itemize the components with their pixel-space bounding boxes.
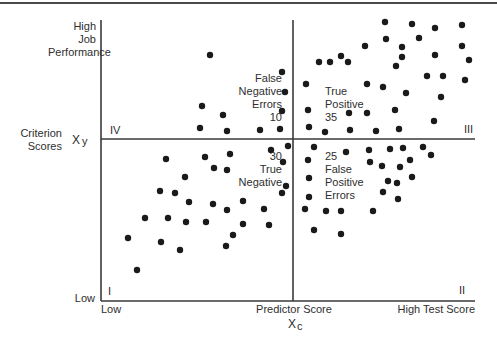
data-point (459, 43, 465, 49)
data-point (172, 190, 178, 196)
data-point (224, 207, 230, 213)
fn-count: 10 (222, 111, 282, 124)
y-axis-title: Criterion Scores (10, 127, 62, 153)
true-positive-annotation: True Positive 35 (325, 85, 364, 124)
tp-count: 35 (325, 111, 364, 124)
data-point (440, 73, 446, 79)
fn-line-3: Errors (222, 98, 282, 111)
quadrant-III-label: III (464, 123, 473, 136)
data-point (224, 128, 230, 134)
data-points (125, 19, 472, 273)
tp-line-1: True (325, 85, 364, 98)
data-point (432, 52, 438, 58)
data-point (211, 165, 217, 171)
data-point (399, 44, 405, 50)
data-point (387, 146, 393, 152)
data-point (223, 243, 229, 249)
data-point (177, 247, 183, 253)
data-point (282, 89, 288, 95)
data-point (347, 127, 353, 133)
data-point (207, 52, 213, 58)
y-symbol-main: X (72, 133, 80, 147)
data-point (142, 215, 148, 221)
data-point (266, 222, 272, 228)
data-point (283, 183, 289, 189)
data-point (380, 84, 386, 90)
data-point (403, 90, 409, 96)
data-point (182, 174, 188, 180)
y-title-line-2: Scores (10, 140, 62, 153)
data-point (163, 156, 169, 162)
data-point (370, 208, 376, 214)
y-high-line-1: High (48, 20, 96, 33)
data-point (306, 194, 312, 200)
x-axis-center-label: Predictor Score (252, 303, 336, 316)
data-point (285, 143, 291, 149)
false-negative-annotation: False Negative Errors 10 (222, 72, 282, 124)
data-point (134, 267, 140, 273)
data-point (302, 206, 308, 212)
data-point (210, 201, 216, 207)
data-point (323, 208, 329, 214)
x-axis-high-label: High Test Score (390, 303, 475, 316)
x-symbol-main: X (288, 317, 296, 331)
data-point (367, 159, 373, 165)
data-point (380, 189, 386, 195)
data-point (158, 239, 164, 245)
data-point (186, 199, 192, 205)
data-point (383, 36, 389, 42)
data-point (306, 124, 312, 130)
data-point (373, 128, 379, 134)
data-point (203, 219, 209, 225)
x-axis-symbol: Xc (288, 318, 303, 331)
data-point (305, 157, 311, 163)
data-point (385, 178, 391, 184)
data-point (165, 215, 171, 221)
data-point (157, 188, 163, 194)
y-axis-low-label: Low (70, 292, 95, 305)
data-point (397, 164, 403, 170)
data-point (416, 35, 422, 41)
data-point (409, 174, 415, 180)
data-point (338, 208, 344, 214)
tn-line-2: True (222, 163, 282, 176)
data-point (338, 53, 344, 59)
data-point (257, 127, 263, 133)
fp-line-4: Errors (325, 189, 364, 202)
tn-line-3: Negative (222, 176, 282, 189)
y-high-line-3: Performance (48, 46, 96, 59)
tp-line-2: Positive (325, 98, 364, 111)
data-point (379, 163, 385, 169)
y-axis-symbol: Xy (72, 134, 88, 147)
y-title-line-1: Criterion (10, 127, 62, 140)
data-point (392, 107, 398, 113)
data-point (183, 219, 189, 225)
data-point (459, 22, 465, 28)
data-point (316, 59, 322, 65)
data-point (382, 19, 388, 25)
data-point (396, 126, 402, 132)
data-point (420, 144, 426, 150)
data-point (338, 231, 344, 237)
y-symbol-sub: y (82, 135, 88, 147)
data-point (303, 81, 309, 87)
fn-line-2: Negative (222, 85, 282, 98)
data-point (261, 206, 267, 212)
y-axis-high-label: High Job Performance (48, 20, 96, 59)
data-point (202, 154, 208, 160)
data-point (432, 25, 438, 31)
data-point (395, 196, 401, 202)
fp-count: 25 (325, 150, 364, 163)
data-point (305, 107, 311, 113)
data-point (364, 110, 370, 116)
data-point (311, 144, 317, 150)
tn-count: 30 (222, 150, 282, 163)
x-axis-low-label: Low (101, 303, 121, 316)
false-positive-annotation: 25 False Positive Errors (325, 150, 364, 202)
data-point (364, 81, 370, 87)
data-point (327, 59, 333, 65)
fp-line-3: Positive (325, 176, 364, 189)
quadrant-IV-label: IV (110, 124, 120, 137)
data-point (399, 54, 405, 60)
data-point (125, 235, 131, 241)
